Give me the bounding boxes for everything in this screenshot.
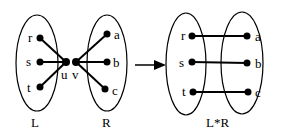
- label-a: a: [255, 29, 261, 44]
- label-t: t: [27, 80, 31, 95]
- node-c: [102, 86, 109, 93]
- node-s: [189, 59, 196, 66]
- label-c: c: [255, 85, 261, 100]
- node-b: [104, 59, 111, 66]
- node-r: [189, 33, 196, 40]
- node-t: [190, 89, 197, 96]
- transform-arrow-icon: [135, 60, 166, 70]
- label-b: b: [113, 55, 120, 70]
- label-r: r: [28, 30, 33, 45]
- node-s: [37, 59, 44, 66]
- label-v: v: [72, 67, 79, 82]
- label-a: a: [114, 27, 120, 42]
- label-c: c: [112, 83, 118, 98]
- label-u: u: [61, 67, 68, 82]
- set-R-label: R: [102, 115, 111, 130]
- set-L-label: L: [31, 115, 39, 130]
- node-r: [37, 35, 44, 42]
- label-s: s: [26, 54, 31, 69]
- label-s: s: [179, 55, 184, 70]
- label-b: b: [255, 56, 262, 71]
- node-u: [62, 58, 70, 66]
- node-t: [37, 84, 44, 91]
- node-a: [104, 31, 111, 38]
- diagram-canvas: r s t u v a b c L R r s t: [0, 0, 282, 134]
- label-r: r: [181, 28, 186, 43]
- edges: [192, 36, 248, 92]
- node-b: [244, 60, 251, 67]
- node-v: [72, 58, 80, 66]
- nodes: [189, 33, 252, 96]
- node-a: [244, 33, 251, 40]
- right-diagram: r s t a b c L*R: [166, 12, 263, 130]
- left-diagram: r s t u v a b c L R: [16, 15, 127, 130]
- node-c: [245, 89, 252, 96]
- label-t: t: [182, 84, 186, 99]
- product-left-ellipse: [166, 13, 206, 115]
- product-label: L*R: [206, 115, 229, 130]
